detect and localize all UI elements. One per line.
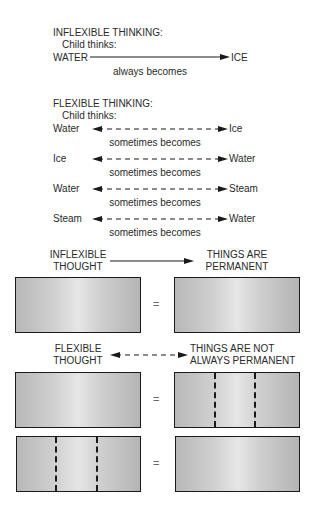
- division-dashed-line: [96, 437, 98, 491]
- inflexible-from-label: WATER: [53, 52, 88, 63]
- flexible-thought-label-line2: THOUGHT: [40, 355, 116, 366]
- flexible-row-relation: sometimes becomes: [100, 227, 210, 238]
- inflexible-child-thinks: Child thinks:: [62, 39, 116, 50]
- ice-block-divided: [174, 372, 300, 428]
- dashed-double-arrow-icon: [92, 124, 228, 134]
- inflexible-thought-label-line1: INFLEXIBLE: [40, 249, 116, 260]
- division-dashed-line: [55, 437, 57, 491]
- not-permanent-label-line2: ALWAYS PERMANENT: [190, 355, 295, 366]
- flexible-child-thinks: Child thinks:: [62, 110, 116, 121]
- flexible-thinking-heading: FLEXIBLE THINKING:: [53, 98, 153, 109]
- dashed-double-arrow-icon: [92, 214, 228, 224]
- inflexible-to-label: ICE: [231, 52, 248, 63]
- dashed-double-arrow-icon: [92, 184, 228, 194]
- flexible-row-from: Steam: [53, 213, 82, 224]
- permanent-label-line2: PERMANENT: [196, 261, 278, 272]
- division-dashed-line: [254, 373, 256, 427]
- dashed-double-arrow-icon: [92, 154, 228, 164]
- flexible-row-from: Water: [53, 123, 79, 134]
- flexible-row-to: Water: [229, 213, 255, 224]
- flexible-row-to: Ice: [229, 123, 242, 134]
- equals-sign: =: [153, 457, 159, 469]
- flexible-row-relation: sometimes becomes: [100, 137, 210, 148]
- dashed-double-arrow-icon: [110, 350, 190, 360]
- division-dashed-line: [214, 373, 216, 427]
- not-permanent-label-line1: THINGS ARE NOT: [190, 343, 274, 354]
- flexible-thought-label-line1: FLEXIBLE: [40, 343, 116, 354]
- solid-arrow-icon: [110, 256, 196, 266]
- inflexible-thought-label-line2: THOUGHT: [40, 261, 116, 272]
- ice-block-whole: [174, 277, 300, 333]
- flexible-row-relation: sometimes becomes: [100, 167, 210, 178]
- inflexible-relation: always becomes: [100, 66, 200, 77]
- flexible-row-to: Steam: [229, 183, 258, 194]
- permanent-label-line1: THINGS ARE: [196, 249, 278, 260]
- inflexible-thinking-heading: INFLEXIBLE THINKING:: [53, 27, 163, 38]
- ice-block-divided: [16, 436, 141, 492]
- ice-block-whole: [15, 372, 141, 428]
- solid-arrow-icon: [90, 52, 232, 62]
- flexible-row-from: Ice: [53, 153, 66, 164]
- flexible-row-to: Water: [229, 153, 255, 164]
- ice-block-whole: [15, 277, 141, 333]
- ice-block-whole: [175, 436, 300, 492]
- flexible-row-from: Water: [53, 183, 79, 194]
- equals-sign: =: [153, 298, 159, 310]
- flexible-row-relation: sometimes becomes: [100, 197, 210, 208]
- equals-sign: =: [153, 393, 159, 405]
